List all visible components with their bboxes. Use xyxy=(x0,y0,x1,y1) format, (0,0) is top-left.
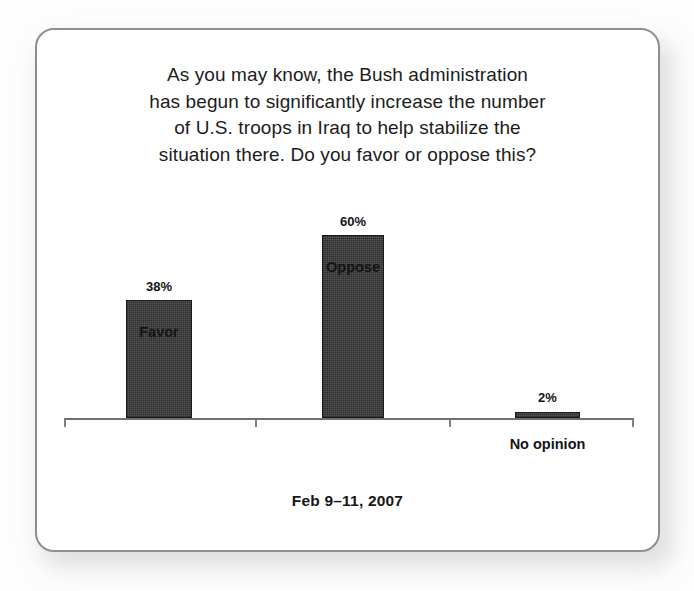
chart-card: As you may know, the Bush administration… xyxy=(35,28,660,552)
chart-page: As you may know, the Bush administration… xyxy=(0,0,694,591)
category-label-favor: Favor xyxy=(139,324,179,340)
bar-group-favor: 38% Favor xyxy=(126,300,192,418)
survey-date-label: Feb 9–11, 2007 xyxy=(37,492,658,510)
category-label-no-opinion: No opinion xyxy=(510,436,586,452)
bar-favor[interactable] xyxy=(126,300,192,418)
bar-value-no-opinion: 2% xyxy=(538,390,557,405)
bar-value-oppose: 60% xyxy=(340,214,366,229)
axis-tick-divider-2 xyxy=(449,419,451,427)
bar-value-favor: 38% xyxy=(146,279,172,294)
axis-tick-divider-1 xyxy=(255,419,257,427)
category-label-oppose: Oppose xyxy=(326,259,380,275)
chart-title: As you may know, the Bush administration… xyxy=(71,62,624,168)
bar-group-oppose: 60% Oppose xyxy=(322,235,384,418)
bar-chart-plot-area: 38% Favor 60% Oppose 2% No opinion xyxy=(64,180,634,420)
x-axis-baseline xyxy=(64,418,634,420)
axis-tick-start xyxy=(64,419,66,427)
axis-tick-end xyxy=(632,419,634,427)
